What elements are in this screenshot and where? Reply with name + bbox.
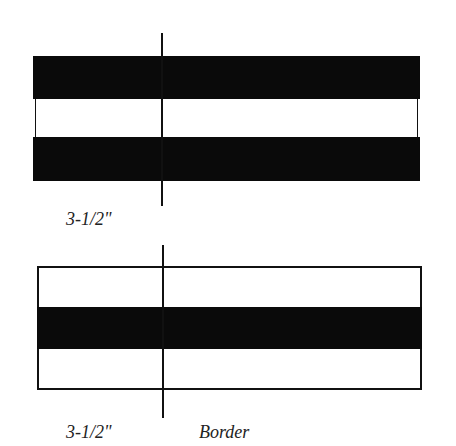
top-strip-measure-line	[161, 33, 163, 206]
top-strip-band-lower-black	[33, 137, 420, 181]
top-strip-band-upper-black	[33, 56, 420, 99]
bottom-strip-band-middle-black	[37, 307, 422, 349]
bottom-strip-measure-label: 3-1/2"	[66, 423, 112, 441]
bottom-strip-border-label: Border	[199, 423, 249, 441]
bottom-strip-measure-line	[162, 245, 164, 418]
top-strip-figure: 3-1/2"	[0, 0, 456, 225]
top-strip-band-middle-white	[35, 99, 418, 137]
bottom-strip-figure: 3-1/2" Border	[0, 225, 456, 446]
